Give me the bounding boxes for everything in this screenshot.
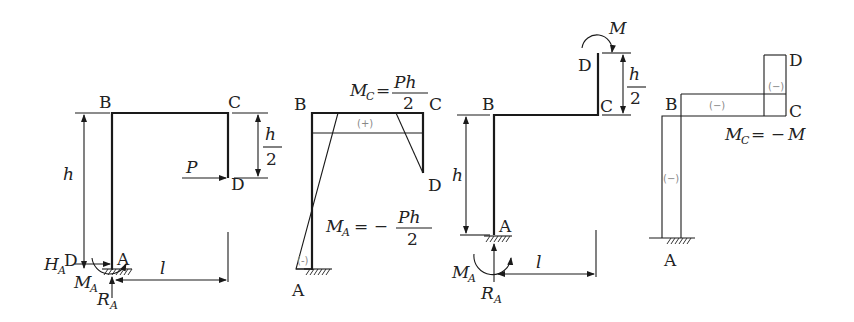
structural-frame-figure: h h 2 P B C D A H A l [0, 0, 854, 322]
svg-text:R: R [480, 283, 494, 303]
svg-text:l: l [160, 258, 165, 278]
reaction-ma-ra: M A R A [451, 244, 511, 306]
load-p-arrow: P [182, 157, 226, 178]
svg-text:=: = [376, 80, 390, 100]
svg-text:A: A [467, 272, 476, 285]
svg-text:D: D [64, 250, 78, 270]
svg-text:A: A [493, 293, 502, 306]
svg-text:A: A [341, 226, 350, 239]
svg-text:P: P [185, 157, 198, 177]
svg-text:M: M [787, 124, 806, 144]
dimension-l: l [116, 232, 228, 282]
svg-text:2: 2 [403, 93, 414, 113]
svg-text:2: 2 [407, 229, 418, 249]
svg-text:A: A [109, 299, 118, 312]
svg-text:B: B [665, 94, 678, 114]
svg-text:h: h [63, 164, 74, 184]
svg-text:D: D [789, 50, 803, 70]
sign-negative: (-) [297, 255, 309, 266]
svg-text:Ph: Ph [393, 72, 416, 92]
point-a: A [116, 249, 130, 269]
svg-text:h: h [452, 165, 463, 185]
svg-text:D: D [428, 175, 442, 195]
svg-text:A: A [291, 280, 305, 300]
panel-frame-load-m: M h 2 h l M A R [451, 18, 646, 306]
svg-text:= −: = − [751, 124, 785, 144]
svg-text:A: A [663, 250, 677, 270]
panel-frame-load-p: h h 2 P B C D A H A l [43, 92, 282, 312]
svg-text:C: C [366, 90, 375, 103]
svg-text:2: 2 [630, 88, 641, 108]
svg-text:A: A [498, 216, 512, 236]
svg-text:= −: = − [354, 216, 388, 236]
svg-text:B: B [294, 94, 307, 114]
fixed-support-icon [484, 236, 512, 242]
svg-text:h: h [629, 64, 640, 84]
svg-text:Ph: Ph [397, 207, 420, 227]
svg-text:(−): (−) [663, 173, 679, 184]
svg-text:C: C [600, 96, 613, 116]
mc-label: M C = − M [724, 124, 806, 147]
applied-moment-m: M [582, 18, 627, 52]
dimension-l: l [498, 230, 596, 277]
svg-text:D: D [578, 55, 592, 75]
svg-text:B: B [482, 94, 495, 114]
point-b: B [99, 92, 112, 112]
ma-label: M A = − Ph 2 [325, 207, 432, 249]
dimension-h: h [452, 115, 490, 235]
frame-members [112, 113, 228, 270]
fixed-support-icon [304, 269, 332, 275]
svg-text:C: C [429, 94, 442, 114]
dimension-half-h: h 2 [232, 113, 282, 178]
svg-text:M: M [608, 18, 627, 38]
svg-text:(−): (−) [768, 81, 784, 92]
point-c: C [228, 92, 241, 112]
svg-text:R: R [96, 289, 110, 309]
mc-label: M C = Ph 2 [349, 72, 428, 113]
svg-text:2: 2 [266, 149, 277, 169]
fixed-support-icon [649, 238, 695, 244]
dimension-h: h [63, 113, 110, 268]
frame-members [494, 53, 598, 235]
panel-moment-diagram-p: (+) (-) B C D A M C = Ph 2 M A = − P [291, 72, 442, 300]
sign-positive: (+) [357, 118, 373, 129]
panel-moment-diagram-m: (−) (−) (−) B C D A M C = − M [649, 50, 806, 270]
svg-text:(−): (−) [709, 100, 725, 111]
point-d: D [231, 174, 245, 194]
svg-text:l: l [536, 252, 541, 272]
svg-text:C: C [789, 101, 802, 121]
svg-text:h: h [265, 124, 276, 144]
svg-text:C: C [741, 134, 750, 147]
